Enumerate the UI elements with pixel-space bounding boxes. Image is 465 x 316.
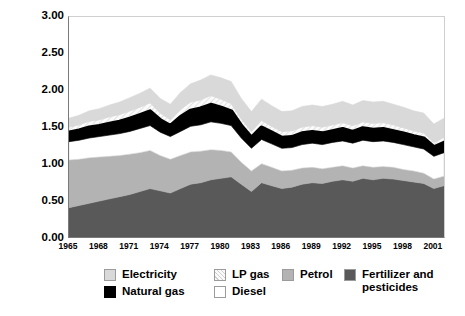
legend-swatch <box>344 269 356 281</box>
y-tick-label: 1.50 <box>18 120 64 132</box>
x-tick-label: 1974 <box>150 241 169 251</box>
x-tick-label: 1980 <box>211 241 230 251</box>
legend-row-1: ElectricityLP gasPetrolFertilizer and pe… <box>104 268 444 285</box>
y-tick-label: 0.00 <box>18 231 64 243</box>
x-axis-tick-labels: 1965196819711974197719801983198619891992… <box>68 241 445 257</box>
x-tick-label: 1968 <box>89 241 108 251</box>
legend-swatch <box>104 286 116 298</box>
x-tick-label: 2001 <box>423 241 442 251</box>
legend-label: Electricity <box>122 268 177 281</box>
y-tick-label: 0.50 <box>18 194 64 206</box>
legend-row-2: Natural gasDiesel <box>104 285 444 302</box>
x-tick-label: 1965 <box>59 241 78 251</box>
y-tick-label: 2.50 <box>18 46 64 58</box>
x-tick-label: 1977 <box>180 241 199 251</box>
legend-item-natural-gas[interactable]: Natural gas <box>104 285 185 298</box>
x-tick-label: 1983 <box>241 241 260 251</box>
legend-swatch <box>104 269 116 281</box>
plot-area <box>68 16 445 238</box>
legend-swatch <box>214 286 226 298</box>
x-tick-label: 1989 <box>302 241 321 251</box>
legend-item-lp-gas[interactable]: LP gas <box>214 268 270 281</box>
legend-label: Diesel <box>232 285 266 298</box>
y-tick-label: 1.00 <box>18 157 64 169</box>
legend-label: Petrol <box>300 268 333 281</box>
x-tick-label: 1986 <box>271 241 290 251</box>
legend-label: Natural gas <box>122 285 185 298</box>
y-tick-label: 3.00 <box>18 9 64 21</box>
legend-item-electricity[interactable]: Electricity <box>104 268 177 281</box>
x-tick-label: 1995 <box>363 241 382 251</box>
legend-item-petrol[interactable]: Petrol <box>282 268 333 281</box>
legend-item-diesel[interactable]: Diesel <box>214 285 266 298</box>
y-tick-label: 2.00 <box>18 83 64 95</box>
x-tick-label: 1971 <box>119 241 138 251</box>
x-tick-label: 1998 <box>393 241 412 251</box>
chart-legend: ElectricityLP gasPetrolFertilizer and pe… <box>104 268 444 312</box>
x-tick-label: 1992 <box>332 241 351 251</box>
legend-swatch <box>214 269 226 281</box>
y-axis-tick-labels: 3.002.502.001.501.000.500.00 <box>14 0 64 260</box>
stacked-area-chart: Quadrillion Btu 3.002.502.001.501.000.50… <box>0 0 465 316</box>
legend-label: LP gas <box>232 268 270 281</box>
plot-svg <box>69 17 444 237</box>
legend-swatch <box>282 269 294 281</box>
